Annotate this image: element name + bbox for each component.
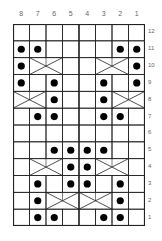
column-label: 5 bbox=[63, 10, 79, 17]
column-label: 4 bbox=[79, 10, 95, 17]
purl-dot-icon bbox=[51, 214, 58, 221]
purl-dot-icon bbox=[67, 180, 74, 187]
purl-dot-icon bbox=[18, 79, 25, 86]
row-label: 10 bbox=[148, 62, 155, 68]
purl-dot-icon bbox=[84, 180, 91, 187]
knitting-chart-grid bbox=[13, 24, 145, 226]
column-label: 6 bbox=[46, 10, 62, 17]
purl-dot-icon bbox=[84, 163, 91, 170]
purl-dot-icon bbox=[133, 62, 140, 69]
row-label: 1 bbox=[148, 214, 151, 220]
purl-dot-icon bbox=[100, 79, 107, 86]
row-label: 3 bbox=[148, 180, 151, 186]
purl-dot-icon bbox=[34, 113, 41, 120]
purl-dot-icon bbox=[51, 147, 58, 154]
column-label: 8 bbox=[13, 10, 29, 17]
purl-dot-icon bbox=[34, 214, 41, 221]
purl-dot-icon bbox=[117, 46, 124, 53]
purl-dot-icon bbox=[67, 147, 74, 154]
purl-dot-icon bbox=[117, 113, 124, 120]
column-label: 7 bbox=[30, 10, 46, 17]
purl-dot-icon bbox=[34, 197, 41, 204]
row-label: 12 bbox=[148, 28, 155, 34]
row-label: 4 bbox=[148, 163, 151, 169]
row-label: 9 bbox=[148, 79, 151, 85]
purl-dot-icon bbox=[18, 46, 25, 53]
row-label: 7 bbox=[148, 113, 151, 119]
purl-dot-icon bbox=[18, 62, 25, 69]
purl-dot-icon bbox=[117, 214, 124, 221]
column-label: 3 bbox=[96, 10, 112, 17]
purl-dot-icon bbox=[100, 214, 107, 221]
purl-dot-icon bbox=[67, 163, 74, 170]
column-label: 2 bbox=[112, 10, 128, 17]
purl-dot-icon bbox=[117, 197, 124, 204]
purl-dot-icon bbox=[51, 113, 58, 120]
chart-svg bbox=[13, 24, 145, 226]
purl-dot-icon bbox=[34, 46, 41, 53]
purl-dot-icon bbox=[133, 46, 140, 53]
purl-dot-icon bbox=[133, 79, 140, 86]
purl-dot-icon bbox=[100, 113, 107, 120]
column-label: 1 bbox=[129, 10, 145, 17]
row-label: 8 bbox=[148, 96, 151, 102]
row-label: 2 bbox=[148, 197, 151, 203]
purl-dot-icon bbox=[100, 147, 107, 154]
purl-dot-icon bbox=[34, 180, 41, 187]
purl-dot-icon bbox=[51, 96, 58, 103]
purl-dot-icon bbox=[51, 79, 58, 86]
row-label: 11 bbox=[148, 45, 154, 51]
purl-dot-icon bbox=[100, 96, 107, 103]
row-label: 5 bbox=[148, 146, 151, 152]
purl-dot-icon bbox=[117, 180, 124, 187]
row-label: 6 bbox=[148, 129, 151, 135]
purl-dot-icon bbox=[84, 147, 91, 154]
